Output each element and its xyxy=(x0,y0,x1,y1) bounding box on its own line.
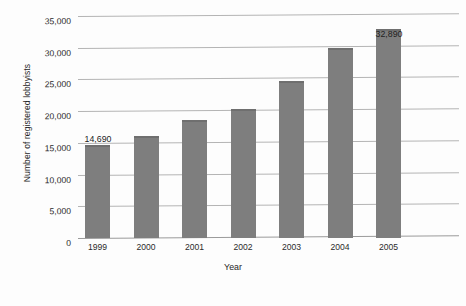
bar-2001 xyxy=(182,120,207,238)
gridline-20000: 20,000 xyxy=(78,108,459,112)
y-tick-label-15000: 15,000 xyxy=(21,143,71,153)
bar-1999 xyxy=(85,145,110,238)
y-tick-label-30000: 30,000 xyxy=(21,48,71,58)
y-tick-label-10000: 10,000 xyxy=(21,175,71,185)
bar-cap xyxy=(182,120,207,122)
y-tick-label-35000: 35,000 xyxy=(21,16,71,26)
bar-chart-figure: Number of registered lobbyists 35,000 30… xyxy=(0,0,466,306)
x-tick-label-2005: 2005 xyxy=(366,242,412,252)
data-label-2005: 32,890 xyxy=(358,29,420,39)
y-tick-label-0: 0 xyxy=(21,238,71,248)
bar-2003 xyxy=(279,81,304,238)
plot-area: 35,000 30,000 25,000 20,000 15,000 10,00… xyxy=(78,16,459,238)
gridline-30000: 30,000 xyxy=(78,45,459,49)
x-tick-label-2001: 2001 xyxy=(172,242,218,252)
bar-2000 xyxy=(134,136,159,238)
bar-2004 xyxy=(328,48,353,238)
bar-cap xyxy=(85,145,110,147)
bar-cap xyxy=(279,81,304,83)
bar-2002 xyxy=(231,109,256,238)
gridline-25000: 25,000 xyxy=(78,77,459,81)
data-label-1999: 14,690 xyxy=(67,134,129,144)
y-tick-label-20000: 20,000 xyxy=(21,111,71,121)
gridline-35000: 35,000 xyxy=(78,13,459,17)
x-tick-label-2003: 2003 xyxy=(269,242,315,252)
x-tick-label-2000: 2000 xyxy=(123,242,169,252)
y-tick-label-25000: 25,000 xyxy=(21,79,71,89)
y-tick-label-5000: 5,000 xyxy=(21,206,71,216)
x-tick-label-2002: 2002 xyxy=(220,242,266,252)
x-tick-label-1999: 1999 xyxy=(75,242,121,252)
bar-2005 xyxy=(376,29,401,238)
x-tick-label-2004: 2004 xyxy=(317,242,363,252)
bar-cap xyxy=(231,109,256,111)
bar-cap xyxy=(134,136,159,138)
x-axis-title: Year xyxy=(0,262,466,272)
bar-cap xyxy=(328,48,353,50)
